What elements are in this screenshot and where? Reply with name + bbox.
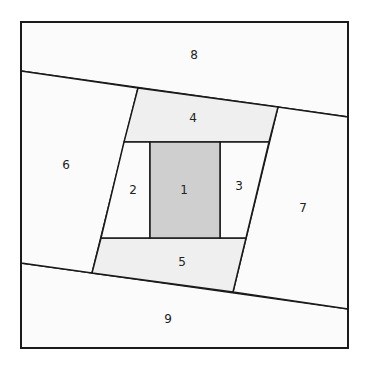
label-3: 3 — [235, 179, 243, 193]
label-2: 2 — [129, 183, 137, 197]
label-4: 4 — [189, 111, 197, 125]
label-1: 1 — [180, 183, 188, 197]
label-9: 9 — [164, 312, 172, 326]
label-5: 5 — [178, 255, 186, 269]
label-8: 8 — [190, 48, 198, 62]
label-6: 6 — [62, 158, 70, 172]
quilt-block-diagram: 1 2 3 4 5 6 7 8 9 — [0, 0, 366, 380]
label-7: 7 — [299, 201, 307, 215]
